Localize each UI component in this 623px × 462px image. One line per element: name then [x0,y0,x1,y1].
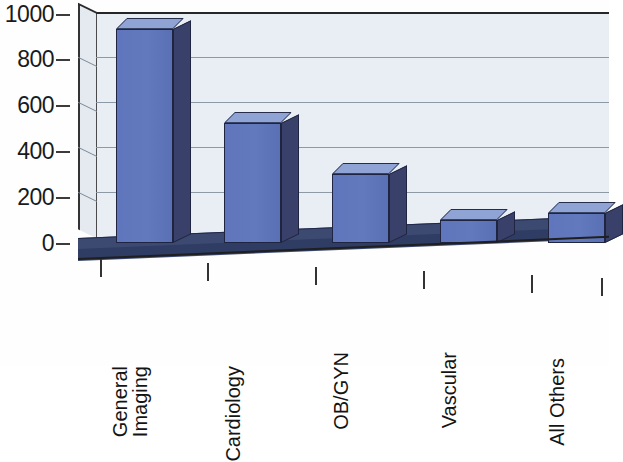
bar-cardiology[interactable] [224,123,281,243]
x-tick-mark-5 [601,278,603,296]
x-tick-mark-0 [100,259,102,277]
x-tick-mark-4 [531,275,533,293]
y-tick-label-0: 0 [42,230,54,257]
x-tick-mark-3 [423,271,425,289]
y-tick-mark-400 [56,151,70,153]
x-label-line-1: All Others [546,358,568,446]
x-label-line-1: Vascular [438,352,460,428]
x-tick-label-ob-gyn: OB/GYN [331,352,351,430]
bar-side-face [173,20,191,243]
bar-front-face [224,123,281,243]
bar-general-imaging[interactable] [116,29,173,243]
bar-side-face [281,114,299,243]
x-label-line-2: Imaging [130,366,150,437]
y-tick-label-800: 800 [17,46,54,73]
x-tick-label-general-imaging: General Imaging [110,366,151,437]
x-label-line-1: OB/GYN [330,352,352,430]
bar-front-face [332,174,389,243]
y-tick-label-600: 600 [17,92,54,119]
y-tick-mark-0 [56,243,70,245]
x-tick-mark-2 [315,267,317,285]
x-label-line-1: General [109,366,131,437]
x-tick-label-all-others: All Others [547,358,567,446]
y-axis: 1000 800 600 400 200 0 [0,0,78,260]
x-tick-label-cardiology: Cardiology [223,366,243,462]
y-tick-mark-200 [56,197,70,199]
bar-front-face [116,29,173,243]
bar-side-face [389,165,407,243]
plot-area [78,0,609,262]
y-tick-label-400: 400 [17,138,54,165]
x-tick-mark-1 [207,263,209,281]
y-tick-mark-600 [56,105,70,107]
bar-front-face [440,220,497,243]
y-tick-label-200: 200 [17,184,54,211]
y-tick-mark-800 [56,59,70,61]
x-tick-label-vascular: Vascular [439,352,459,428]
y-tick-label-1000: 1000 [5,1,54,28]
bar-vascular[interactable] [440,220,497,243]
x-label-line-1: Cardiology [222,366,244,462]
y-tick-mark-1000 [56,14,70,16]
bar-ob-gyn[interactable] [332,174,389,243]
